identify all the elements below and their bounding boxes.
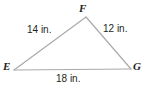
side-length-label-fg: 12 in. (103, 24, 127, 34)
triangle-side-EG (14, 69, 131, 70)
vertex-label-e: E (3, 61, 10, 72)
vertex-label-g: G (133, 61, 141, 72)
side-length-label-eg: 18 in. (56, 74, 80, 84)
triangle-figure: F E G 14 in. 12 in. 18 in. (0, 0, 146, 90)
vertex-label-f: F (79, 3, 86, 14)
side-length-label-ef: 14 in. (27, 25, 51, 35)
